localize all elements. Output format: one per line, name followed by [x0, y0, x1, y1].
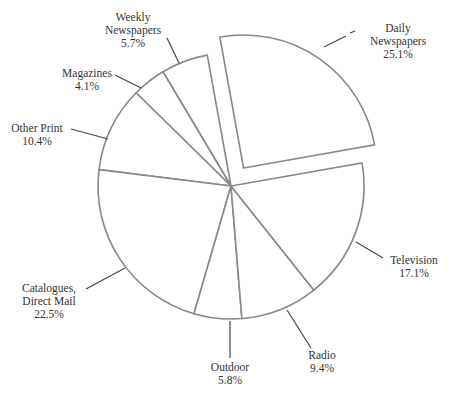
leader-otherprint — [71, 129, 108, 139]
label-outdoor: Outdoor 5.8% — [211, 361, 249, 387]
label-magazines-line1: Magazines — [62, 67, 112, 80]
pie-slices — [98, 35, 375, 319]
pie-slice-daily-newspapers — [220, 35, 375, 168]
leader-weekly — [167, 38, 179, 63]
label-magazines: Magazines 4.1% — [62, 67, 112, 93]
label-weekly-line1: Weekly — [105, 11, 161, 24]
label-otherprint-line1: Other Print — [11, 122, 62, 135]
leader-magazines — [115, 75, 141, 88]
label-television: Television 17.1% — [390, 254, 438, 280]
label-weekly-value: 5.7% — [105, 37, 161, 50]
label-weekly-line2: Newspapers — [105, 24, 161, 37]
label-radio-line1: Radio — [308, 349, 335, 362]
label-otherprint-value: 10.4% — [11, 135, 62, 148]
label-television-value: 17.1% — [390, 267, 438, 280]
leader-catalogues — [86, 268, 125, 289]
label-catalogues-line2: Direct Mail — [22, 295, 76, 308]
leader-daily — [324, 36, 346, 47]
label-catalogues-line1: Catalogues, — [22, 282, 76, 295]
label-daily-newspapers: Daily Newspapers 25.1% — [370, 22, 426, 61]
leader-daily-tail — [350, 31, 355, 33]
label-magazines-value: 4.1% — [62, 80, 112, 93]
label-weekly-newspapers: Weekly Newspapers 5.7% — [105, 11, 161, 50]
label-daily-line1: Daily — [370, 22, 426, 35]
label-outdoor-value: 5.8% — [211, 374, 249, 387]
label-catalogues-value: 22.5% — [22, 308, 76, 321]
pie-chart: Daily Newspapers 25.1% Weekly Newspapers… — [0, 0, 455, 400]
label-outdoor-line1: Outdoor — [211, 361, 249, 374]
label-catalogues-direct-mail: Catalogues, Direct Mail 22.5% — [22, 282, 76, 321]
label-radio-value: 9.4% — [308, 362, 335, 375]
leader-television — [356, 242, 383, 258]
label-daily-line2: Newspapers — [370, 35, 426, 48]
label-daily-value: 25.1% — [370, 48, 426, 61]
label-television-line1: Television — [390, 254, 438, 267]
label-other-print: Other Print 10.4% — [11, 122, 62, 148]
leader-radio — [287, 310, 311, 348]
label-radio: Radio 9.4% — [308, 349, 335, 375]
